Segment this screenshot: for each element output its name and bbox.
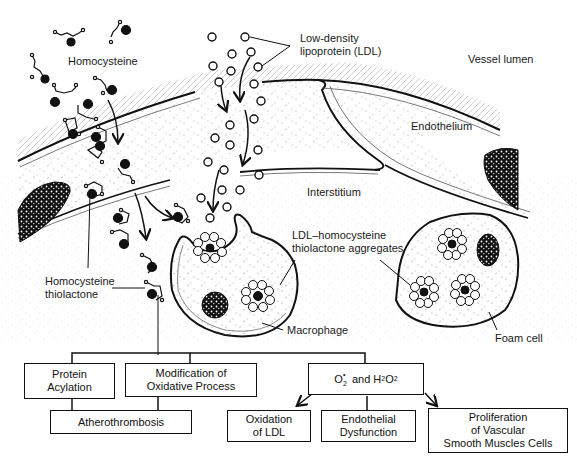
aggregates-label-line1: LDL–homocysteine xyxy=(292,229,386,242)
modification-oxidative-box: Modification of Oxidative Process xyxy=(125,363,257,397)
vessel-lumen-label: Vessel lumen xyxy=(468,53,533,66)
atherothrombosis-text: Atherothrombosis xyxy=(78,416,164,429)
aggregates-label-line2: thiolactone aggregates xyxy=(292,242,403,255)
oxidation-line2: of LDL xyxy=(253,426,285,439)
endothelial-line1: Endothelial xyxy=(341,413,395,426)
proliferation-line1: Proliferation xyxy=(469,411,528,424)
ros-o: O xyxy=(334,373,343,386)
endothelial-dysfunction-box: Endothelial Dysfunction xyxy=(321,410,416,442)
atherothrombosis-box: Atherothrombosis xyxy=(50,410,192,434)
thiolactone-label-line2: thiolactone xyxy=(45,288,98,301)
proliferation-box: Proliferation of Vascular Smooth Muscles… xyxy=(428,408,568,453)
ros-box: O•2 and H2O2 xyxy=(308,363,424,395)
macrophage-label: Macrophage xyxy=(287,324,348,337)
homocysteine-label: Homocysteine xyxy=(68,55,138,68)
interstitium-label: Interstitium xyxy=(307,186,361,199)
protein-acylation-line1: Protein xyxy=(52,368,87,381)
proliferation-line3: Smooth Muscles Cells xyxy=(444,437,553,450)
modification-line2: Oxidative Process xyxy=(147,380,236,393)
modification-line1: Modification of xyxy=(156,367,227,380)
thiolactone-label-line1: Homocysteine xyxy=(45,275,115,288)
foam-cell-label: Foam cell xyxy=(495,332,543,345)
endothelium-label: Endothelium xyxy=(411,120,472,133)
oxidation-line1: Oxidation xyxy=(246,413,292,426)
endothelial-line2: Dysfunction xyxy=(340,426,397,439)
ros-and-h: and H xyxy=(349,373,381,386)
ldl-label-line1: Low-density xyxy=(300,32,359,45)
oxidation-ldl-box: Oxidation of LDL xyxy=(227,410,311,442)
proliferation-line2: of Vascular xyxy=(471,424,525,437)
ldl-label-line2: lipoprotein (LDL) xyxy=(300,45,381,58)
protein-acylation-box: Protein Acylation xyxy=(24,363,115,399)
protein-acylation-line2: Acylation xyxy=(47,381,92,394)
ros-o2: O xyxy=(385,373,394,386)
